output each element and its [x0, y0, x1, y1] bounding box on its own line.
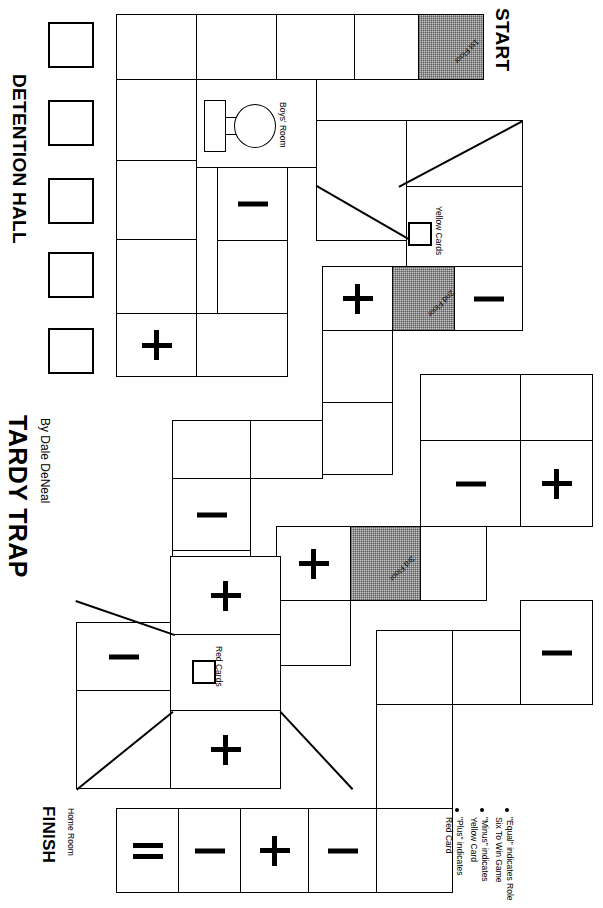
plus-glyph [542, 469, 572, 499]
minus-glyph [456, 481, 486, 486]
yellow-cards-slot[interactable] [408, 222, 432, 246]
space-mid-d[interactable] [250, 420, 323, 479]
space-red-cards-room[interactable] [170, 634, 281, 711]
space-right-3-minus[interactable] [420, 440, 521, 527]
space-mid-b[interactable] [322, 402, 393, 475]
space-left-col-1[interactable] [116, 79, 197, 161]
space-right-bottom-4[interactable] [376, 808, 453, 893]
wall-diagonal-rc-botright [280, 711, 354, 790]
space-right-5-minus[interactable] [520, 600, 593, 705]
bullet-icon [505, 808, 509, 812]
legend-item-plus: "Plus" indicates Red Card [444, 808, 462, 900]
space-3rd-floor-below[interactable] [276, 600, 351, 666]
space-red-cards-above-plus[interactable] [170, 556, 281, 635]
detention-hall-title: DETENTION HALL [8, 74, 30, 244]
space-top-3[interactable] [196, 14, 277, 80]
legend-item-plus-text: "Plus" indicates Red Card [444, 817, 465, 875]
game-board: TARDY TRAP By Dale DeNeal DETENTION HALL… [0, 0, 603, 908]
detention-slot-5[interactable] [48, 328, 94, 374]
plus-glyph [211, 735, 241, 765]
legend-item-minus-text: "Minus" indicates Yellow Card [469, 817, 490, 882]
legend-equal-line2: Six To Win Game [495, 817, 505, 883]
space-finish-minus-1[interactable] [178, 808, 241, 893]
space-right-1[interactable] [420, 374, 521, 441]
space-finish-plus[interactable] [240, 808, 309, 893]
space-hall-c[interactable] [196, 313, 288, 377]
yellow-cards-label: Yellow Cards [434, 206, 444, 255]
space-top-1[interactable] [354, 14, 419, 80]
detention-slot-1[interactable] [48, 22, 94, 68]
plus-glyph [260, 836, 290, 866]
minus-glyph [474, 296, 504, 301]
space-right-bottom-3[interactable] [376, 704, 453, 809]
space-red-cards-left[interactable] [76, 690, 171, 789]
minus-glyph [195, 848, 225, 853]
space-3rd-floor-right[interactable] [420, 526, 487, 601]
red-cards-slot[interactable] [192, 660, 216, 684]
finish-label: FINISH [38, 806, 58, 863]
toilet-tank-icon [204, 100, 226, 152]
plus-glyph [343, 284, 373, 314]
legend-item-equal-text: "Equal" indicates Role Six To Win Game [494, 817, 515, 901]
legend-minus-line2: Yellow Card [470, 817, 480, 862]
minus-glyph [542, 650, 572, 655]
space-diagonal-room[interactable] [316, 120, 407, 241]
page-byline: By Dale DeNeal [38, 418, 52, 503]
boys-room-label: Boys' Room [278, 102, 288, 148]
space-3rd-floor-plus[interactable] [276, 526, 351, 601]
space-finish-equals[interactable] [116, 808, 179, 893]
space-hall-b[interactable] [217, 240, 288, 314]
legend-item-equal: "Equal" indicates Role Six To Win Game [494, 808, 512, 900]
space-2nd-floor-plus[interactable] [322, 266, 393, 331]
plus-glyph [211, 581, 241, 611]
floor-label-2nd: 2nd Floor [425, 288, 455, 318]
space-left-col-2[interactable] [116, 160, 197, 240]
floor-label-3rd: 3rd Floor [387, 553, 416, 582]
floor-label-1st: 1st Floor [452, 37, 480, 65]
space-mid-a[interactable] [322, 330, 393, 403]
space-red-cards-plus-b[interactable] [170, 710, 281, 789]
legend-minus-line1: "Minus" indicates [480, 817, 490, 882]
space-mid-c[interactable] [172, 420, 251, 479]
space-top-4[interactable] [116, 14, 197, 80]
space-mid-e-minus[interactable] [172, 478, 251, 551]
minus-glyph [197, 512, 227, 517]
page-title: TARDY TRAP [3, 415, 32, 578]
bullet-icon [480, 808, 484, 812]
plus-glyph [142, 330, 172, 360]
legend-equal-line1: "Equal" indicates Role [505, 817, 515, 901]
minus-glyph [328, 848, 358, 853]
space-2nd-floor[interactable]: 2nd Floor [392, 266, 455, 331]
bullet-icon [455, 808, 459, 812]
space-left-col-4-plus[interactable] [116, 313, 197, 377]
toilet-bowl-icon [234, 104, 276, 148]
legend-plus-line2: Red Card [445, 817, 455, 853]
space-left-col-3[interactable] [116, 239, 197, 314]
minus-glyph [109, 654, 139, 659]
space-minus-a[interactable] [217, 167, 288, 241]
detention-slot-3[interactable] [48, 178, 94, 224]
plus-glyph [299, 549, 329, 579]
space-right-bottom-2[interactable] [452, 630, 521, 705]
finish-sublabel: Home Room [66, 808, 76, 856]
space-right-2[interactable] [520, 374, 593, 441]
space-right-4-plus[interactable] [520, 440, 593, 527]
minus-glyph [238, 202, 268, 207]
space-start-1st-floor[interactable]: 1st Floor [418, 14, 484, 80]
detention-slot-2[interactable] [48, 100, 94, 146]
space-right-bottom-1[interactable] [376, 630, 453, 705]
space-finish-minus-2[interactable] [308, 808, 377, 893]
space-red-cards-minus[interactable] [76, 622, 171, 691]
detention-slot-4[interactable] [48, 252, 94, 298]
equals-glyph [133, 843, 163, 859]
red-cards-label: Red Cards [214, 646, 224, 687]
start-label: START [491, 8, 513, 71]
space-3rd-floor[interactable]: 3rd Floor [350, 526, 421, 601]
legend-item-minus: "Minus" indicates Yellow Card [469, 808, 487, 900]
legend: "Plus" indicates Red Card "Minus" indica… [462, 808, 592, 900]
space-2nd-floor-minus[interactable] [454, 266, 523, 331]
space-top-2[interactable] [276, 14, 355, 80]
legend-plus-line1: "Plus" indicates [455, 817, 465, 875]
